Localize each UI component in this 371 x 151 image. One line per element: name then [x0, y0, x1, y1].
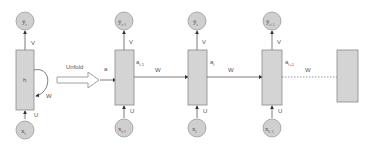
state-label: at-1 — [136, 59, 145, 67]
w-label-2: W — [228, 67, 234, 73]
hidden-label-folded: h — [23, 77, 26, 83]
v-label-folded: V — [31, 40, 35, 46]
u-label: U — [278, 108, 282, 114]
u-label-folded: U — [34, 112, 38, 118]
time-step-t-minus-1: ŷt-1 V at-1 U xt-1 — [115, 12, 145, 137]
u-label: U — [130, 108, 134, 114]
w-label-folded: W — [46, 93, 52, 99]
w-label-3: W — [305, 67, 311, 73]
v-label: V — [129, 39, 133, 45]
state-label: at — [210, 59, 215, 67]
hidden-block — [262, 50, 282, 105]
time-step-t: ŷt V at U xt — [188, 12, 215, 137]
w-label-1: W — [155, 67, 161, 73]
u-label: U — [203, 108, 207, 114]
v-label: V — [202, 39, 206, 45]
next-hidden-block — [337, 50, 358, 102]
state-label: at+1 — [285, 59, 295, 67]
hidden-block — [115, 50, 134, 105]
unfold-arrow: Unfold — [57, 64, 99, 88]
unfold-label: Unfold — [66, 64, 83, 70]
v-label: V — [277, 39, 281, 45]
folded-rnn: ŷt V h W U xt — [16, 12, 52, 139]
input-node — [188, 119, 206, 137]
initial-state-label: a — [104, 66, 108, 72]
time-step-t-plus-1: ŷt+1 V at+1 U xt+1 — [262, 12, 295, 137]
hidden-block — [188, 50, 207, 105]
rnn-diagram: ŷt V h W U xt Unfold a ŷt-1 V at-1 U xt-… — [0, 0, 371, 151]
